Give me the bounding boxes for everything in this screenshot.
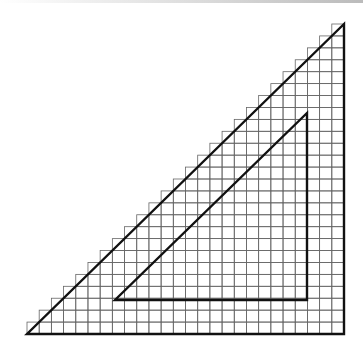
grid-cell xyxy=(320,131,332,143)
grid-cell xyxy=(332,262,344,274)
grid-cell xyxy=(320,251,332,263)
grid-cell xyxy=(259,227,271,239)
grid-cell xyxy=(295,143,307,155)
grid-cell xyxy=(198,191,210,203)
grid-cell xyxy=(88,286,100,298)
grid-cell xyxy=(100,322,112,334)
grid-cell xyxy=(112,310,124,322)
grid-cell xyxy=(161,310,173,322)
grid-cell xyxy=(271,322,283,334)
grid-cell xyxy=(186,179,198,191)
grid-cell xyxy=(283,203,295,215)
grid-cell xyxy=(222,251,234,263)
grid-cell xyxy=(320,203,332,215)
grid-cell xyxy=(246,191,258,203)
grid-cell xyxy=(320,155,332,167)
grid-cell xyxy=(100,310,112,322)
grid-cell xyxy=(198,322,210,334)
grid-cell xyxy=(320,298,332,310)
grid-cell xyxy=(100,274,112,286)
grid-cell xyxy=(198,251,210,263)
grid-cell xyxy=(246,262,258,274)
grid-cell xyxy=(283,215,295,227)
grid-cell xyxy=(320,143,332,155)
grid-cell xyxy=(332,36,344,48)
grid-cell xyxy=(149,239,161,251)
grid-cell xyxy=(186,274,198,286)
grid-cell xyxy=(332,167,344,179)
grid-cell xyxy=(259,107,271,119)
grid-cell xyxy=(271,107,283,119)
grid-cell xyxy=(320,215,332,227)
grid-cell xyxy=(320,167,332,179)
grid-cell xyxy=(246,239,258,251)
grid-cell xyxy=(234,310,246,322)
grid-cell xyxy=(125,239,137,251)
grid-cell xyxy=(332,215,344,227)
grid-cell xyxy=(210,310,222,322)
grid-cell xyxy=(210,179,222,191)
grid-cell xyxy=(125,310,137,322)
grid-cell xyxy=(88,310,100,322)
grid-cell xyxy=(198,274,210,286)
grid-cell xyxy=(295,155,307,167)
grid-cell xyxy=(332,274,344,286)
grid-cell xyxy=(320,84,332,96)
grid-cell xyxy=(76,322,88,334)
grid-cell xyxy=(295,191,307,203)
grid-cell xyxy=(88,298,100,310)
grid-cell xyxy=(283,107,295,119)
grid-cell xyxy=(332,251,344,263)
grid-cell xyxy=(198,310,210,322)
grid-cell xyxy=(246,310,258,322)
grid-cell xyxy=(161,262,173,274)
grid-cell xyxy=(76,298,88,310)
grid-cell xyxy=(198,179,210,191)
grid-cell xyxy=(259,119,271,131)
grid-cell xyxy=(307,60,319,72)
grid-cell xyxy=(64,310,76,322)
grid-cell xyxy=(320,119,332,131)
grid-cell xyxy=(198,239,210,251)
grid-cell xyxy=(332,107,344,119)
grid-cell xyxy=(64,322,76,334)
grid-cell xyxy=(149,322,161,334)
grid-cell xyxy=(271,227,283,239)
grid-cell xyxy=(283,310,295,322)
grid-cell xyxy=(283,251,295,263)
grid-cell xyxy=(283,155,295,167)
grid-cell xyxy=(295,131,307,143)
grid-cell xyxy=(271,203,283,215)
grid-cell xyxy=(320,48,332,60)
grid-cell xyxy=(332,72,344,84)
grid-cell xyxy=(307,167,319,179)
grid-cell xyxy=(259,167,271,179)
grid-cell xyxy=(320,310,332,322)
grid-cell xyxy=(210,274,222,286)
grid-cell xyxy=(100,286,112,298)
grid-cell xyxy=(100,262,112,274)
grid-cell xyxy=(320,227,332,239)
grid-cell xyxy=(320,322,332,334)
grid-cell xyxy=(307,143,319,155)
grid-cell xyxy=(222,215,234,227)
grid-cell xyxy=(259,322,271,334)
grid-cell xyxy=(198,286,210,298)
grid-cell xyxy=(186,310,198,322)
grid-cell xyxy=(295,179,307,191)
grid-cell xyxy=(259,179,271,191)
grid-cell xyxy=(100,298,112,310)
grid-cell xyxy=(283,84,295,96)
grid-cell xyxy=(295,274,307,286)
grid-cell xyxy=(332,96,344,108)
grid-cell xyxy=(332,155,344,167)
grid-cell xyxy=(320,262,332,274)
grid-cell xyxy=(283,239,295,251)
grid-cell xyxy=(246,131,258,143)
grid-cell xyxy=(246,274,258,286)
grid-cell xyxy=(295,239,307,251)
grid-cell xyxy=(137,239,149,251)
grid-cell xyxy=(271,239,283,251)
grid-cell xyxy=(234,143,246,155)
grid-cell xyxy=(198,262,210,274)
